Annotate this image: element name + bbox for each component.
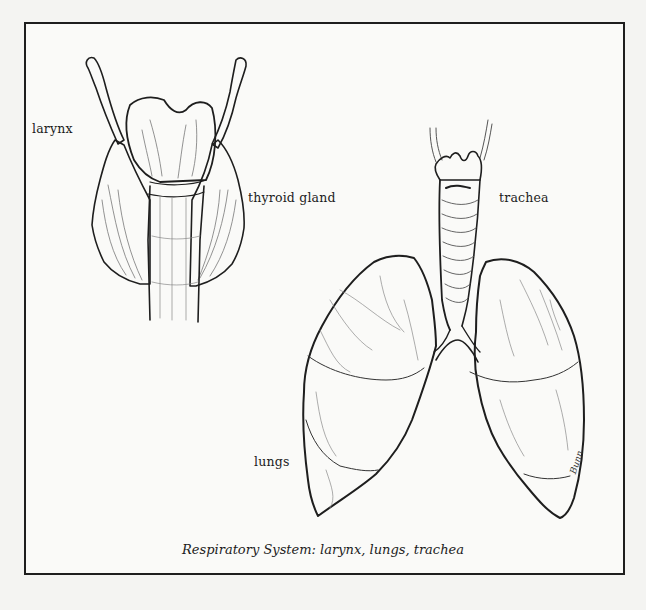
- thyroid-gland-drawing: [92, 140, 244, 286]
- larynx-cartilage: [127, 97, 216, 182]
- larynx-trachea-tube: [148, 186, 204, 322]
- respiratory-illustration: [0, 0, 646, 610]
- label-trachea: trachea: [499, 190, 549, 205]
- larynx-drawing: [86, 58, 246, 322]
- lungs-drawing: [303, 256, 584, 518]
- label-lungs: lungs: [254, 454, 290, 469]
- label-larynx: larynx: [32, 121, 73, 136]
- label-thyroid-gland: thyroid gland: [248, 190, 336, 205]
- figure-caption: Respiratory System: larynx, lungs, trach…: [0, 542, 646, 557]
- lung-left: [303, 256, 436, 516]
- trachea-drawing: [430, 120, 492, 330]
- lung-right: [475, 259, 584, 518]
